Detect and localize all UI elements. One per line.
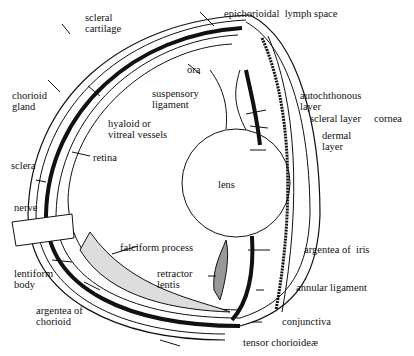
- label-retractor-lentis: retractor lentis: [157, 268, 193, 290]
- label-cornea: cornea: [374, 113, 402, 124]
- label-autochthonous-layer: autochthonous layer: [300, 90, 361, 112]
- label-retina: retina: [93, 152, 117, 163]
- eye-diagram: [0, 0, 414, 356]
- label-argentea-of-chorioid: argentea of chorioid: [36, 305, 83, 327]
- label-scleral-cartilage: scleral cartilage: [85, 12, 121, 34]
- label-tensor-chorioideae: tensor chorioideæ: [243, 337, 318, 348]
- label-lentiform-body: lentiform body: [14, 268, 53, 290]
- label-scleral-layer: scleral layer: [310, 113, 361, 124]
- label-falciform-process: falciform process: [120, 242, 193, 253]
- label-argentea-of-iris: argentea of iris: [304, 244, 369, 255]
- label-suspensory-ligament: suspensory ligament: [152, 88, 199, 110]
- label-lens: lens: [218, 179, 235, 190]
- label-chorioid-gland: chorioid gland: [12, 90, 47, 112]
- label-nerve: nerve: [14, 202, 37, 213]
- label-hyaloid-vessels: hyaloid or vitreal vessels: [108, 118, 167, 140]
- label-dermal-layer: dermal layer: [322, 130, 351, 152]
- label-ora: ora: [187, 64, 200, 75]
- label-epichorioidal-lymph-space: epichorioidal lymph space: [224, 8, 337, 19]
- label-annular-ligament: annular ligament: [296, 282, 367, 293]
- label-conjunctiva: conjunctiva: [282, 316, 331, 327]
- label-sclera: sclera: [11, 160, 35, 171]
